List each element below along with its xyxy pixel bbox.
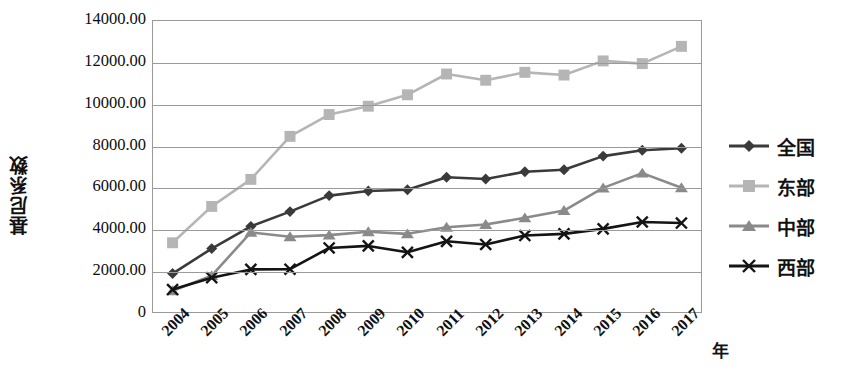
series-line xyxy=(173,46,682,242)
series-marker xyxy=(676,41,687,52)
series-marker xyxy=(519,166,530,177)
legend-marker-icon xyxy=(727,175,771,197)
y-axis-tick-label: 10000.00 xyxy=(34,95,146,111)
data-series xyxy=(167,143,687,279)
legend-marker-icon xyxy=(727,135,771,157)
data-series-layer xyxy=(153,21,701,312)
gridline xyxy=(153,188,701,189)
gridline xyxy=(153,105,701,106)
series-marker xyxy=(480,174,491,185)
legend-item-label: 西部 xyxy=(777,253,815,280)
y-axis-tick-label: 4000.00 xyxy=(34,220,146,236)
series-marker xyxy=(519,67,530,78)
legend-item-1[interactable]: 全国 xyxy=(727,126,835,166)
series-marker xyxy=(598,55,609,66)
chart-legend: 全国东部中部西部 xyxy=(727,126,835,286)
series-marker xyxy=(598,151,609,162)
legend-item-3[interactable]: 中部 xyxy=(727,206,835,246)
gini-coefficient-line-chart: 基尼系数 02000.004000.006000.008000.0010000.… xyxy=(0,0,841,383)
series-marker xyxy=(285,131,296,142)
legend-item-label: 中部 xyxy=(777,213,815,240)
gridline xyxy=(153,63,701,64)
series-marker xyxy=(441,172,452,183)
x-axis-title: 年 xyxy=(712,337,729,362)
legend-item-label: 东部 xyxy=(777,173,815,200)
legend-item-4[interactable]: 西部 xyxy=(727,246,835,286)
plot-area xyxy=(152,20,702,313)
series-marker xyxy=(285,206,296,217)
legend-item-label: 全国 xyxy=(777,133,815,160)
series-marker xyxy=(480,75,491,86)
y-axis-tick-label: 14000.00 xyxy=(34,11,146,27)
series-marker xyxy=(206,201,217,212)
y-axis-tick-label: 0 xyxy=(34,304,146,320)
data-series xyxy=(167,41,687,248)
series-marker xyxy=(676,143,687,154)
series-line xyxy=(173,148,682,273)
series-marker xyxy=(363,101,374,112)
series-marker xyxy=(363,186,374,197)
series-marker xyxy=(402,184,413,195)
legend-marker-icon xyxy=(727,255,771,277)
series-marker xyxy=(441,69,452,80)
series-marker xyxy=(324,109,335,120)
legend-marker-icon xyxy=(727,215,771,237)
y-axis-tick-label: 6000.00 xyxy=(34,178,146,194)
series-marker xyxy=(167,237,178,248)
legend-item-2[interactable]: 东部 xyxy=(727,166,835,206)
series-marker xyxy=(559,164,570,175)
series-marker xyxy=(559,70,570,81)
series-marker xyxy=(636,168,649,178)
series-marker xyxy=(324,190,335,201)
series-marker xyxy=(402,89,413,100)
y-axis-title: 基尼系数 xyxy=(2,110,36,280)
gridline xyxy=(153,272,701,273)
y-axis-tick-label: 12000.00 xyxy=(34,53,146,69)
gridline xyxy=(153,230,701,231)
y-axis-tick-label: 8000.00 xyxy=(34,137,146,153)
gridline xyxy=(153,147,701,148)
y-axis-tick-labels: 02000.004000.006000.008000.0010000.00120… xyxy=(32,0,146,383)
y-axis-tick-label: 2000.00 xyxy=(34,262,146,278)
series-marker xyxy=(245,174,256,185)
